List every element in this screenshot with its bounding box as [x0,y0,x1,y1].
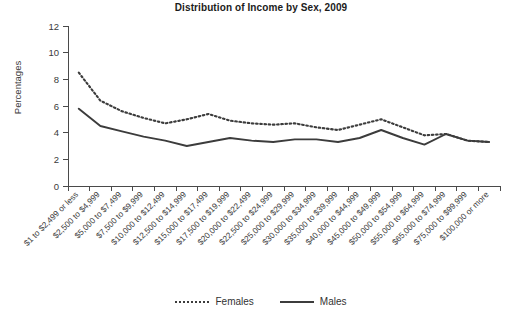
plot-area: 024681012 $1 to $2,499 or less$2,500 to … [0,0,522,319]
x-axis-labels: $1 to $2,499 or less$2,500 to $4,999$5,0… [22,189,491,248]
solid-line-icon [280,301,314,303]
y-axis-ticks: 024681012 [48,21,68,192]
legend-item-males: Males [280,296,347,307]
y-tick-label: 2 [54,154,59,165]
y-tick-label: 12 [48,21,59,32]
y-tick-label: 0 [54,181,59,192]
legend-label-females: Females [215,296,253,307]
dotted-line-icon [175,301,209,303]
series-line-females [79,73,489,142]
chart-legend: Females Males [0,296,522,307]
y-tick-label: 8 [54,74,59,85]
y-tick-label: 4 [54,127,59,138]
y-tick-label: 10 [48,47,59,58]
x-axis-ticks [68,186,500,191]
y-tick-label: 6 [54,101,59,112]
legend-item-females: Females [175,296,253,307]
income-distribution-chart: Distribution of Income by Sex, 2009 Perc… [0,0,522,319]
legend-label-males: Males [320,296,347,307]
series-line-males [79,109,489,146]
